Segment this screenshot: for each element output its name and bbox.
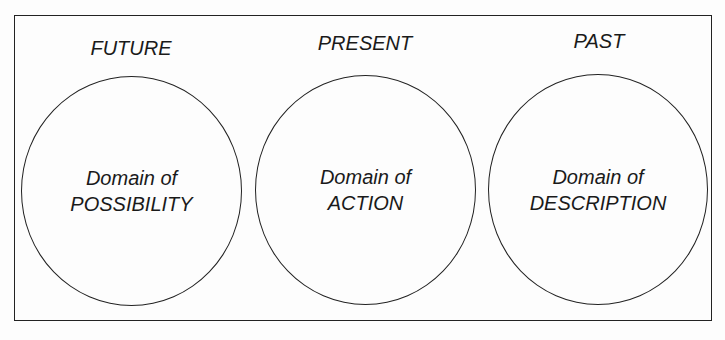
circle-present-line1: Domain of (320, 164, 411, 190)
heading-present: PRESENT (265, 32, 465, 55)
circle-past-line2: DESCRIPTION (530, 190, 667, 216)
circle-future: Domain of POSSIBILITY (21, 76, 242, 306)
circle-present: Domain of ACTION (255, 75, 476, 305)
heading-past: PAST (499, 30, 699, 53)
circle-past-line1: Domain of (552, 164, 643, 190)
circle-future-line2: POSSIBILITY (70, 191, 192, 217)
circle-future-line1: Domain of (86, 165, 177, 191)
heading-future: FUTURE (31, 37, 231, 60)
circle-present-line2: ACTION (328, 190, 404, 216)
circle-past: Domain of DESCRIPTION (488, 74, 708, 305)
